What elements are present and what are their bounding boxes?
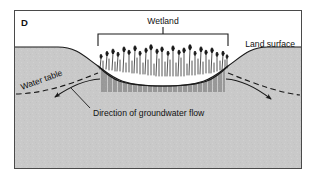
panel-letter: D xyxy=(21,17,28,28)
cross-section-canvas: D Wetland Land surface Water table Direc… xyxy=(0,0,313,179)
flow-direction-label: Direction of groundwater flow xyxy=(93,108,205,118)
wetland-cross-section-figure: D Wetland Land surface Water table Direc… xyxy=(0,0,313,179)
wetland-label: Wetland xyxy=(147,16,179,26)
land-surface-label: Land surface xyxy=(245,39,295,49)
